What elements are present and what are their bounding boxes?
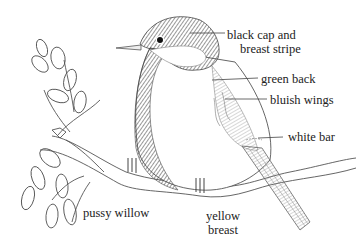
bird-illustration bbox=[0, 0, 356, 247]
label-black-cap: black cap and bbox=[227, 28, 296, 42]
label-breast-stripe: breast stripe bbox=[240, 42, 301, 56]
bird-eye bbox=[156, 36, 163, 43]
label-bluish-wings: bluish wings bbox=[270, 93, 334, 107]
label-yellow-breast-line1: yellow bbox=[206, 209, 240, 223]
label-yellow-breast: yellow breast bbox=[206, 209, 240, 237]
label-pussy-willow: pussy willow bbox=[83, 206, 149, 220]
bird-beak bbox=[116, 45, 141, 50]
label-white-bar: white bar bbox=[288, 130, 335, 144]
label-yellow-breast-line2: breast bbox=[206, 223, 240, 237]
label-green-back: green back bbox=[261, 72, 315, 86]
catkins bbox=[19, 38, 88, 229]
